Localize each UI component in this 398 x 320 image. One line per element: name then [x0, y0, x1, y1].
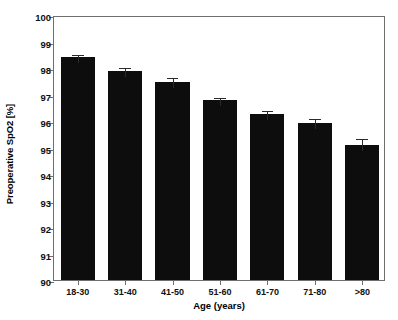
error-bar-stem: [362, 139, 363, 151]
bar: [61, 57, 95, 280]
y-tick-label: 92: [40, 224, 51, 235]
error-bar-stem: [125, 68, 126, 77]
x-axis-title: Age (years): [53, 300, 385, 311]
y-tick-label: 98: [40, 65, 51, 76]
y-axis-title: Preoperative SpO2 [%]: [4, 13, 20, 295]
error-bar-stem: [315, 119, 316, 129]
y-tick-label: 91: [40, 250, 51, 261]
x-tick-mark: [220, 280, 221, 285]
plot-area: 90919293949596979899100 18-3031-4041-505…: [53, 16, 385, 281]
y-tick-label: 100: [35, 12, 51, 23]
error-bar-cap: [356, 139, 368, 140]
x-tick-mark: [362, 280, 363, 285]
error-bar-cap: [167, 78, 179, 79]
x-tick-label: 41-50: [161, 287, 184, 297]
x-tick-label: 18-30: [66, 287, 89, 297]
error-bar-cap: [214, 98, 226, 99]
x-tick-label: >80: [355, 287, 370, 297]
bar-chart-figure: Preoperative SpO2 [%] 909192939495969798…: [0, 0, 398, 320]
x-tick-label: 51-60: [208, 287, 231, 297]
y-tick-label: 96: [40, 118, 51, 129]
bar: [203, 100, 237, 280]
error-bar-cap: [309, 119, 321, 120]
y-tick-label: 93: [40, 197, 51, 208]
y-tick-label: 99: [40, 38, 51, 49]
bar: [345, 145, 379, 280]
x-tick-label: 71-80: [303, 287, 326, 297]
x-tick-mark: [125, 280, 126, 285]
y-tick-label: 97: [40, 91, 51, 102]
error-bar-stem: [78, 55, 79, 64]
bar: [108, 71, 142, 280]
x-tick-label: 61-70: [256, 287, 279, 297]
y-tick-label: 94: [40, 171, 51, 182]
bar: [298, 123, 332, 280]
x-tick-label: 31-40: [114, 287, 137, 297]
bar: [155, 82, 189, 280]
bar: [250, 114, 284, 280]
error-bar-stem: [267, 111, 268, 120]
x-tick-mark: [315, 280, 316, 285]
error-bar-cap: [119, 68, 131, 69]
error-bar-stem: [173, 78, 174, 87]
x-tick-mark: [267, 280, 268, 285]
x-tick-mark: [78, 280, 79, 285]
error-bar-cap: [262, 111, 274, 112]
error-bar-stem: [220, 98, 221, 107]
y-tick-label: 90: [40, 277, 51, 288]
error-bar-cap: [72, 55, 84, 56]
x-tick-mark: [173, 280, 174, 285]
y-tick-label: 95: [40, 144, 51, 155]
